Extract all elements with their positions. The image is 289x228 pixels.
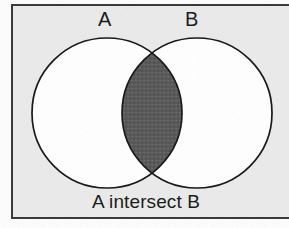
- set-label-b: B: [185, 9, 199, 29]
- venn-diagram-figure: A B A intersect B: [0, 0, 289, 228]
- set-label-a: A: [98, 9, 112, 29]
- diagram-caption: A intersect B: [11, 192, 281, 211]
